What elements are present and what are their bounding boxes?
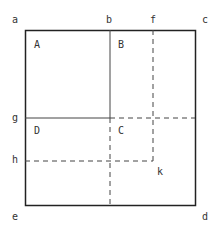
label-g: g bbox=[12, 113, 18, 123]
region-A: A bbox=[34, 40, 40, 50]
label-c: c bbox=[202, 15, 208, 25]
region-B: B bbox=[118, 40, 124, 50]
label-f: f bbox=[150, 15, 156, 25]
label-b: b bbox=[106, 15, 112, 25]
label-e: e bbox=[12, 212, 18, 222]
label-d: d bbox=[202, 212, 208, 222]
region-C: C bbox=[118, 126, 124, 136]
square-diagram bbox=[0, 0, 218, 230]
label-k: k bbox=[157, 167, 163, 177]
region-D: D bbox=[34, 126, 40, 136]
label-a: a bbox=[12, 15, 18, 25]
label-h: h bbox=[12, 155, 18, 165]
